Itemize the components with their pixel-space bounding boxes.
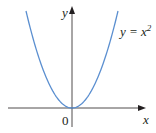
curve-equation-label: y = x2 [120, 24, 151, 38]
x-axis-label: x [143, 113, 149, 126]
y-axis-arrow-icon [69, 6, 75, 14]
x-axis-arrow-icon [138, 105, 146, 111]
y-axis-label: y [62, 6, 68, 19]
parabola-plot [0, 0, 156, 133]
origin-label: 0 [62, 114, 69, 127]
